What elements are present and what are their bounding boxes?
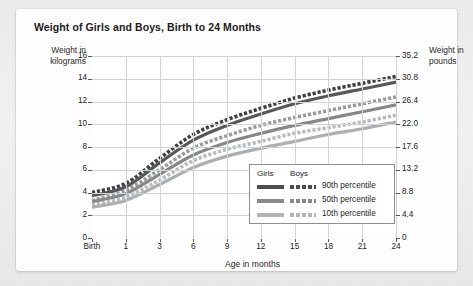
gridline-vertical [227,56,228,238]
y-axis-left-tick-label: 8 [53,142,87,151]
gridline-horizontal [92,79,396,80]
y-axis-left-tickmark [88,102,92,103]
y-axis-right-tickmark [396,79,400,80]
legend-row: 50th percentile [250,195,394,208]
legend-header-girls: Girls [257,169,274,178]
legend-swatch-girls [257,213,284,217]
y-axis-left-tick-label: 10 [53,119,87,128]
legend-row: 10th percentile [250,209,394,222]
x-axis-tickmark [160,239,161,242]
y-axis-left-tickmark [88,56,92,57]
page-title: Weight of Girls and Boys, Birth to 24 Mo… [34,21,261,33]
legend-row: 90th percentile [250,181,394,194]
y-axis-left-tick-label: 16 [53,51,87,60]
y-axis-left-tickmark [88,193,92,194]
x-axis-tickmark [295,239,296,242]
y-axis-right-tick-label: 30.8 [402,73,436,82]
legend-label: 10th percentile [322,209,376,218]
y-axis-right-tickmark [396,102,400,103]
x-axis-tick-label: 9 [225,242,230,251]
x-axis-tick-label: 6 [191,242,196,251]
x-axis-tickmark [92,239,93,242]
x-axis-tick-label: 21 [358,242,367,251]
screenshot-page: Weight of Girls and Boys, Birth to 24 Mo… [0,0,473,286]
legend-swatch-boys [290,213,316,217]
x-axis-tickmark [396,239,397,242]
y-axis-left-tick-label: 2 [53,210,87,219]
x-axis-tickmark [193,239,194,242]
x-axis-tickmark [227,239,228,242]
y-axis-right-tickmark [396,147,400,148]
x-axis-tick-label: Birth [84,242,101,251]
y-axis-left-tickmark [88,170,92,171]
y-axis-right-tick-label: 22.0 [402,119,436,128]
legend-label: 50th percentile [322,195,376,204]
legend-swatch-girls [257,199,284,203]
x-axis-tickmark [126,239,127,242]
gridline-vertical [126,56,127,238]
legend: Girls Boys 90th percentile50th percentil… [249,164,395,224]
y-axis-left-tick-label: 6 [53,164,87,173]
gridline-horizontal [92,56,396,57]
y-axis-right-tickmark [396,56,400,57]
y-axis-left-tick-label: 0 [53,233,87,242]
y-axis-right-tick-label: 17.6 [402,142,436,151]
y-axis-left-tickmark [88,124,92,125]
x-axis-title: Age in months [16,259,473,269]
x-axis-tick-label: 18 [324,242,333,251]
gridline-vertical [193,56,194,238]
y-axis-right-tick-label: 8.8 [402,187,436,196]
x-axis-tick-label: 12 [256,242,265,251]
x-axis-tick-label: 15 [290,242,299,251]
gridline-horizontal [92,124,396,125]
y-axis-right-tickmark [396,215,400,216]
legend-swatch-girls [257,185,284,189]
y-axis-left-tick-label: 4 [53,187,87,196]
y-axis-right-tickmark [396,124,400,125]
legend-label: 90th percentile [322,181,376,190]
y-axis-right-tickmark [396,170,400,171]
legend-swatch-boys [290,199,316,203]
x-axis-tick-label: 1 [123,242,128,251]
x-axis-tick-label: 24 [391,242,400,251]
x-axis-tick-label: 3 [157,242,162,251]
y-axis-right-tick-label: 0 [402,233,436,242]
y-axis-right-tick-label: 13.2 [402,164,436,173]
gridline-horizontal [92,102,396,103]
x-axis-tickmark [328,239,329,242]
legend-header-boys: Boys [290,169,308,178]
y-axis-right-tick-label: 26.4 [402,96,436,105]
y-axis-right-tick-label: 35.2 [402,51,436,60]
gridline-horizontal [92,147,396,148]
y-axis-right-tick-label: 4.4 [402,210,436,219]
chart-card: Weight of Girls and Boys, Birth to 24 Mo… [16,9,457,271]
x-axis-tickmark [362,239,363,242]
y-axis-left-tickmark [88,79,92,80]
y-axis-left-tickmark [88,147,92,148]
x-axis-tickmark [261,239,262,242]
y-axis-left-tick-label: 14 [53,73,87,82]
y-axis-left-tickmark [88,215,92,216]
y-axis-left-tick-label: 12 [53,96,87,105]
gridline-vertical [160,56,161,238]
legend-swatch-boys [290,185,316,189]
y-axis-right-tickmark [396,193,400,194]
